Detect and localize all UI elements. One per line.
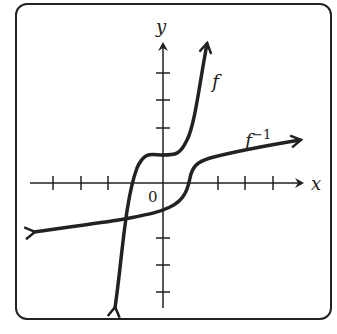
x-axis bbox=[30, 176, 302, 190]
origin-label: 0 bbox=[148, 188, 158, 206]
f-label: f bbox=[210, 70, 222, 92]
x-axis-label: x bbox=[311, 173, 321, 194]
y-axis bbox=[156, 44, 170, 308]
curve-f bbox=[115, 44, 207, 308]
y-axis-label: y bbox=[155, 16, 167, 37]
graph: y x 0 f f−1 bbox=[0, 0, 337, 334]
